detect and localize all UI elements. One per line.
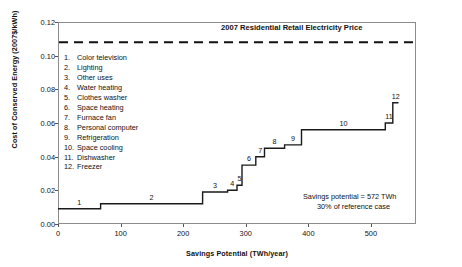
legend-item-label: Space cooling bbox=[77, 143, 123, 152]
legend-item-label: Freezer bbox=[77, 162, 102, 171]
legend-item-number: 2. bbox=[64, 63, 77, 73]
savings-annotation-line1: Savings potential = 572 TWh bbox=[303, 192, 396, 201]
legend-item-label: Water heating bbox=[77, 83, 122, 92]
step-label: 10 bbox=[339, 119, 347, 128]
legend-item-label: Refrigeration bbox=[77, 133, 119, 142]
legend-item-label: Color television bbox=[77, 53, 127, 62]
step-label: 6 bbox=[247, 154, 251, 163]
step-label: 1 bbox=[77, 198, 81, 207]
legend-item-label: Dishwasher bbox=[77, 153, 115, 162]
step-label: 7 bbox=[258, 146, 262, 155]
legend-item-label: Clothes washer bbox=[77, 93, 127, 102]
legend-item-number: 3. bbox=[64, 73, 77, 83]
legend-item: 7.Furnace fan bbox=[64, 113, 138, 123]
legend-item-number: 12. bbox=[64, 162, 77, 172]
legend-item-number: 10. bbox=[64, 143, 77, 153]
step-label: 11 bbox=[385, 112, 392, 121]
legend-item-label: Furnace fan bbox=[77, 113, 116, 122]
legend-item: 5.Clothes washer bbox=[64, 93, 138, 103]
step-label: 4 bbox=[230, 179, 234, 188]
savings-annotation: Savings potential = 572 TWh 30% of refer… bbox=[303, 192, 396, 211]
legend-item-number: 6. bbox=[64, 103, 77, 113]
step-label: 3 bbox=[213, 181, 217, 190]
legend-item: 10.Space cooling bbox=[64, 143, 138, 153]
legend-item-number: 7. bbox=[64, 113, 77, 123]
legend: 1.Color television2.Lighting3.Other uses… bbox=[64, 53, 138, 172]
step-label: 9 bbox=[291, 134, 295, 143]
legend-item-number: 11. bbox=[64, 153, 77, 163]
legend-item-number: 8. bbox=[64, 123, 77, 133]
step-label: 2 bbox=[150, 193, 154, 202]
legend-item: 12.Freezer bbox=[64, 162, 138, 172]
legend-item: 6.Space heating bbox=[64, 103, 138, 113]
step-label: 5 bbox=[238, 174, 242, 183]
legend-item-label: Space heating bbox=[77, 103, 124, 112]
legend-item: 3.Other uses bbox=[64, 73, 138, 83]
reference-line-label: 2007 Residential Retail Electricity Pric… bbox=[221, 23, 362, 32]
legend-item: 2.Lighting bbox=[64, 63, 138, 73]
legend-item: 9.Refrigeration bbox=[64, 133, 138, 143]
legend-item: 11.Dishwasher bbox=[64, 153, 138, 163]
legend-item-number: 4. bbox=[64, 83, 77, 93]
legend-item-label: Lighting bbox=[77, 63, 103, 72]
step-label: 8 bbox=[273, 137, 277, 146]
savings-annotation-line2: 30% of reference case bbox=[303, 202, 396, 212]
cost-of-conserved-energy-chart: 0.000.020.040.060.080.100.12 01002003004… bbox=[0, 0, 462, 267]
legend-item-number: 9. bbox=[64, 133, 77, 143]
legend-item: 8.Personal computer bbox=[64, 123, 138, 133]
legend-item: 1.Color television bbox=[64, 53, 138, 63]
legend-item-label: Other uses bbox=[77, 73, 113, 82]
legend-item-label: Personal computer bbox=[77, 123, 138, 132]
legend-item: 4.Water heating bbox=[64, 83, 138, 93]
legend-item-number: 5. bbox=[64, 93, 77, 103]
step-label: 12 bbox=[392, 92, 400, 101]
legend-item-number: 1. bbox=[64, 53, 77, 63]
